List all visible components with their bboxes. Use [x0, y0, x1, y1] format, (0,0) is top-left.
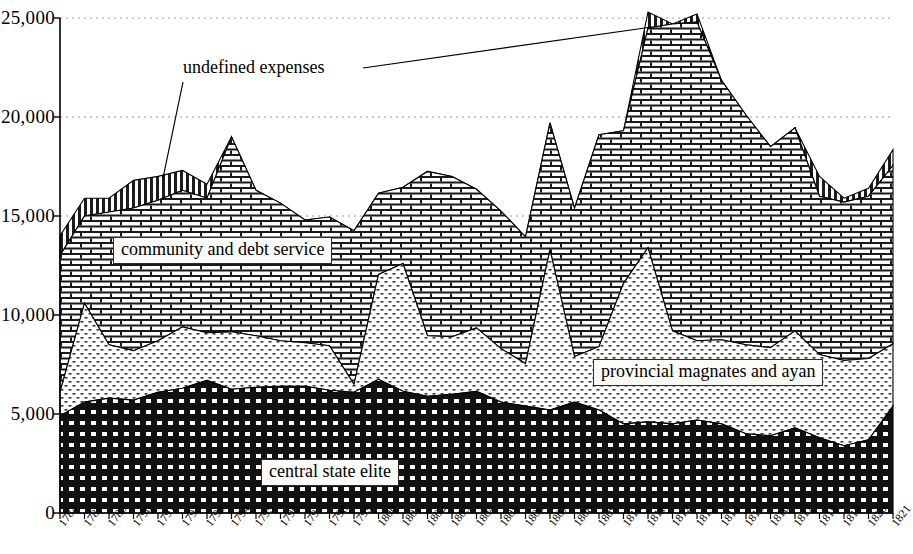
- band-label-central-state-elite: central state elite: [261, 459, 399, 486]
- band-label-community-and-debt-service: community and debt service: [113, 237, 332, 264]
- annotation-undefined-expenses: undefined expenses: [183, 57, 324, 78]
- y-tick-label-0: 0: [0, 502, 55, 524]
- y-tick-label-10000: 10,000: [0, 304, 55, 326]
- y-tick-label-15000: 15,000: [0, 205, 55, 227]
- y-tick-label-20000: 20,000: [0, 106, 55, 128]
- band-label-provincial-magnates-and-ayan: provincial magnates and ayan: [593, 359, 823, 386]
- y-axis-ticks: [54, 18, 60, 513]
- leader-line-left: [163, 82, 183, 178]
- y-tick-label-5000: 5,000: [0, 403, 55, 425]
- y-tick-label-25000: 25,000: [0, 7, 55, 29]
- leader-line-right: [363, 27, 652, 68]
